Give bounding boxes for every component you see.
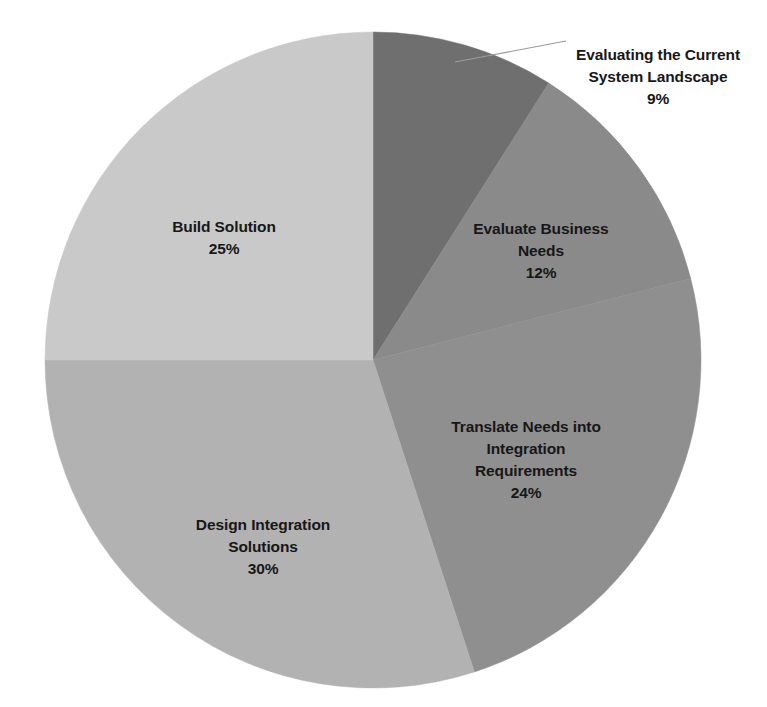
slice-label-design-integration-solutions: Design Integration Solutions 30% [160,492,366,602]
slice-value-text: 24% [424,482,628,504]
pie-chart: Evaluating the Current System Landscape … [0,0,767,707]
slice-value-text: 9% [549,88,767,110]
slice-label-evaluating-the-current-system-landscape: Evaluating the Current System Landscape … [549,22,767,132]
slice-value-text: 12% [445,262,637,284]
slice-label-text: Evaluating the Current System Landscape [576,46,740,85]
slice-label-text: Build Solution [172,218,276,235]
slice-label-build-solution: Build Solution 25% [124,194,324,282]
slice-label-evaluate-business-needs: Evaluate Business Needs 12% [445,196,637,306]
slice-label-translate-needs-into-integration-requirements: Translate Needs into Integration Require… [424,394,628,526]
slice-value-text: 30% [160,558,366,580]
slice-label-text: Evaluate Business Needs [473,220,608,259]
slice-label-text: Translate Needs into Integration Require… [451,418,601,479]
slice-value-text: 25% [124,238,324,260]
slice-label-text: Design Integration Solutions [196,516,330,555]
